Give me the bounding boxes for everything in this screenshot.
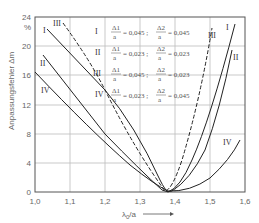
svg-text:= 0,023 ;: = 0,023 ; xyxy=(123,50,148,58)
svg-text:16: 16 xyxy=(22,71,31,80)
x-axis-label: λ0/a xyxy=(122,210,174,220)
svg-text:1,0: 1,0 xyxy=(29,197,41,206)
svg-text:Δ2: Δ2 xyxy=(157,24,166,32)
chart: 0 4 8 12 16 20 24 % Anpassungsfehler Δm … xyxy=(0,0,259,223)
svg-text:Δ1: Δ1 xyxy=(112,24,121,32)
svg-text:24: 24 xyxy=(22,13,31,22)
svg-text:= 0,023 ;: = 0,023 ; xyxy=(123,92,148,100)
svg-text:λ0/a: λ0/a xyxy=(122,210,137,220)
svg-text:1,4: 1,4 xyxy=(169,197,181,206)
y-axis-ticks: 0 4 8 12 16 20 24 % xyxy=(22,13,31,197)
svg-text:1,1: 1,1 xyxy=(64,197,76,206)
svg-text:12: 12 xyxy=(22,101,31,110)
svg-text:a: a xyxy=(113,75,117,83)
svg-text:= 0,023: = 0,023 xyxy=(168,71,190,79)
svg-text:1,5: 1,5 xyxy=(204,197,216,206)
svg-text:Δ1: Δ1 xyxy=(112,87,121,95)
svg-text:0: 0 xyxy=(27,188,32,197)
svg-text:IV: IV xyxy=(223,138,232,147)
svg-text:a: a xyxy=(113,96,117,104)
svg-text:I: I xyxy=(226,23,229,32)
x-axis-ticks: 1,0 1,1 1,2 1,3 1,4 1,5 1,6 xyxy=(29,197,251,206)
legend: I Δ1a = 0,045 ; Δ2a = 0,045 II Δ1a = 0,0… xyxy=(93,24,190,104)
svg-text:a: a xyxy=(113,54,117,62)
svg-text:= 0,045 ;: = 0,045 ; xyxy=(123,71,148,79)
svg-text:1,2: 1,2 xyxy=(99,197,111,206)
svg-text:Δ2: Δ2 xyxy=(157,87,166,95)
legend-item-III: III Δ1a = 0,045 ; Δ2a = 0,023 xyxy=(93,66,190,83)
svg-text:III: III xyxy=(93,69,101,78)
svg-text:IV: IV xyxy=(41,86,50,95)
svg-text:20: 20 xyxy=(22,42,31,51)
legend-item-II: II Δ1a = 0,023 ; Δ2a = 0,023 xyxy=(95,45,190,62)
svg-text:= 0,023: = 0,023 xyxy=(168,50,190,58)
svg-text:8: 8 xyxy=(27,130,32,139)
y-axis-label: Anpassungsfehler Δm xyxy=(7,51,16,130)
svg-text:II: II xyxy=(40,59,46,68)
svg-text:1,3: 1,3 xyxy=(134,197,146,206)
svg-text:IV: IV xyxy=(95,90,104,99)
svg-text:Δ2: Δ2 xyxy=(157,66,166,74)
svg-text:I: I xyxy=(95,27,98,36)
svg-text:III: III xyxy=(53,19,61,28)
svg-text:I: I xyxy=(43,26,46,35)
svg-text:a: a xyxy=(158,33,162,41)
svg-text:4: 4 xyxy=(27,159,32,168)
svg-text:= 0,045: = 0,045 xyxy=(168,29,190,37)
curve-IV xyxy=(35,72,240,191)
svg-text:a: a xyxy=(158,54,162,62)
svg-text:Δ1: Δ1 xyxy=(112,66,121,74)
svg-text:a: a xyxy=(113,33,117,41)
svg-text:= 0,045: = 0,045 xyxy=(168,92,190,100)
svg-text:II: II xyxy=(233,53,239,62)
curves xyxy=(35,23,240,192)
svg-text:%: % xyxy=(24,23,31,32)
legend-item-I: I Δ1a = 0,045 ; Δ2a = 0,045 xyxy=(95,24,190,41)
svg-text:Δ1: Δ1 xyxy=(112,45,121,53)
svg-text:a: a xyxy=(158,96,162,104)
svg-text:Δ2: Δ2 xyxy=(157,45,166,53)
svg-text:a: a xyxy=(158,75,162,83)
svg-text:= 0,045 ;: = 0,045 ; xyxy=(123,29,148,37)
svg-text:III: III xyxy=(208,31,216,40)
svg-text:1,6: 1,6 xyxy=(239,197,251,206)
svg-text:II: II xyxy=(95,48,101,57)
